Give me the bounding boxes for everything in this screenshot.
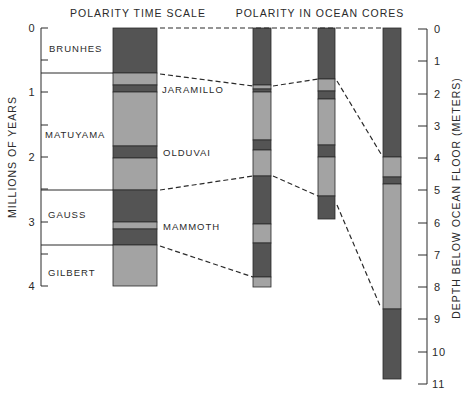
left-tick-1: 1 [28,86,35,98]
right-axis-label: DEPTH BELOW OCEAN FLOOR (METERS) [450,77,462,318]
left-axis [41,28,113,286]
left-tick-3: 3 [28,216,35,228]
epoch-matuyama: MATUYAMA [45,129,105,140]
left-axis-ticks: 0 1 2 3 4 [28,22,35,292]
right-tick-0: 0 [434,23,441,35]
time-scale-column [113,28,157,286]
correlation-lines [160,28,383,308]
left-axis-label: MILLIONS OF YEARS [6,96,18,218]
event-olduvai: OLDUVAI [163,147,211,158]
epoch-labels: BRUNHES MATUYAMA GAUSS GILBERT [45,43,105,278]
polarity-diagram: POLARITY TIME SCALE POLARITY IN OCEAN CO… [0,0,469,397]
right-tick-6: 6 [434,217,441,229]
ocean-core-2 [318,28,335,219]
epoch-brunhes: BRUNHES [49,43,102,54]
left-tick-4: 4 [28,280,35,292]
right-tick-8: 8 [434,281,441,293]
left-tick-0: 0 [28,22,35,34]
ocean-core-3 [383,28,401,379]
event-labels: JARAMILLO OLDUVAI MAMMOTH [162,84,224,232]
right-tick-3: 3 [434,120,441,132]
ocean-core-1 [253,28,271,287]
right-tick-2: 2 [434,88,441,100]
epoch-gilbert: GILBERT [48,267,95,278]
left-tick-2: 2 [28,151,35,163]
right-tick-5: 5 [434,184,441,196]
event-jaramillo: JARAMILLO [162,84,224,95]
right-tick-7: 7 [434,249,441,261]
right-tick-9: 9 [434,313,441,325]
right-axis [418,29,427,384]
right-tick-10: 10 [432,346,446,358]
event-mammoth: MAMMOTH [163,221,220,232]
right-tick-11: 11 [432,378,445,390]
right-axis-ticks: 0 1 2 3 4 5 6 7 8 9 10 11 [432,23,446,390]
title-time-scale: POLARITY TIME SCALE [70,7,206,19]
right-tick-4: 4 [434,152,441,164]
epoch-gauss: GAUSS [48,209,86,220]
right-tick-1: 1 [434,55,441,67]
title-ocean-cores: POLARITY IN OCEAN CORES [236,7,405,19]
